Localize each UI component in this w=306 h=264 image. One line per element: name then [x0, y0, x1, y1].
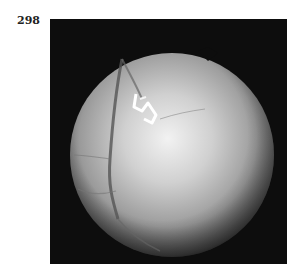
figure-label: 298 [17, 14, 40, 27]
fundus-image [50, 19, 287, 264]
